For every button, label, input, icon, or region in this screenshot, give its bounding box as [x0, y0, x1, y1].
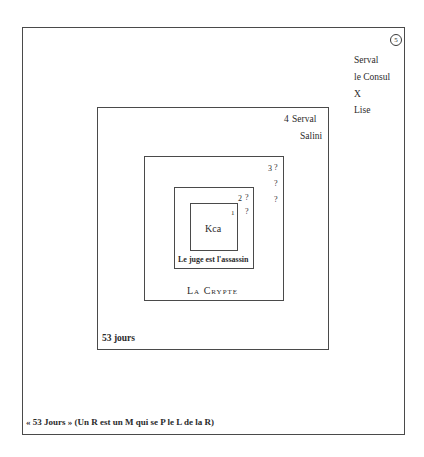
level-3-caption: La Crypte — [187, 286, 238, 296]
level-5-number: 5 — [394, 36, 398, 44]
level-5-character-3: X — [354, 90, 361, 100]
level-3-question-3: ? — [274, 196, 278, 204]
level-5-number-badge: 5 — [390, 34, 402, 46]
level-1-caption: Kca — [205, 224, 221, 234]
level-1-question: ? — [245, 208, 249, 216]
level-3-question-1: ? — [274, 164, 278, 172]
level-2-caption: Le juge est l'assassin — [178, 256, 248, 264]
level-5-caption: « 53 Jours » (Un R est un M qui se P le … — [26, 418, 214, 427]
level-3-question-2: ? — [274, 180, 278, 188]
level-5-character-2: le Consul — [354, 73, 390, 83]
level-4-number: 4 — [284, 115, 289, 125]
level-3-number: 3 — [268, 165, 272, 173]
level-2-number: 2 — [238, 195, 242, 203]
level-4-character-1: Serval — [292, 115, 316, 125]
level-5-character-1: Serval — [354, 56, 378, 66]
level-5-character-4: Lise — [354, 106, 370, 116]
level-4-caption: 53 jours — [102, 334, 135, 344]
level-1-number: 1 — [231, 210, 235, 217]
level-4-character-2: Salini — [300, 132, 322, 142]
level-2-question: ? — [245, 194, 249, 202]
